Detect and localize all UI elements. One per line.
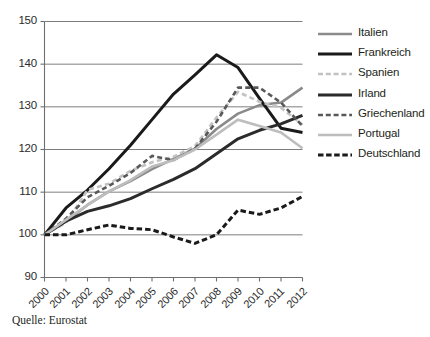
legend-label: Frankreich	[358, 46, 411, 58]
legend-swatch-italien-icon	[318, 26, 352, 38]
y-tick-label-120: 120	[11, 142, 37, 154]
legend-label: Spanien	[358, 66, 399, 78]
legend-item-griechenland[interactable]: Griechenland	[318, 103, 430, 123]
legend-swatch-griechenland-icon	[318, 107, 352, 119]
legend-swatch-frankreich-icon	[318, 46, 352, 58]
source-note: Quelle: Eurostat	[12, 314, 87, 326]
legend-label: Griechenland	[358, 107, 425, 119]
legend-swatch-spanien-icon	[318, 66, 352, 78]
y-tick-label-150: 150	[11, 14, 37, 26]
series-line-irland	[45, 115, 303, 234]
legend-item-frankreich[interactable]: Frankreich	[318, 42, 430, 62]
legend-item-portugal[interactable]: Portugal	[318, 123, 430, 143]
legend-item-italien[interactable]: Italien	[318, 22, 430, 42]
legend-label: Italien	[358, 26, 388, 38]
y-tick-label-130: 130	[11, 99, 37, 111]
y-tick-label-90: 90	[11, 270, 37, 282]
y-tick-label-100: 100	[11, 227, 37, 239]
series-line-portugal	[45, 120, 303, 235]
y-tick-label-110: 110	[11, 185, 37, 197]
legend-swatch-irland-icon	[318, 87, 352, 99]
legend-swatch-portugal-icon	[318, 127, 352, 139]
legend-swatch-deutschland-icon	[318, 147, 352, 159]
legend-label: Portugal	[358, 127, 400, 139]
chart-legend: ItalienFrankreichSpanienIrlandGriechenla…	[318, 22, 430, 163]
x-tick-marks-group	[45, 278, 303, 282]
legend-label: Deutschland	[358, 147, 420, 159]
series-line-deutschland	[45, 196, 303, 243]
y-tick-label-140: 140	[11, 57, 37, 69]
legend-item-irland[interactable]: Irland	[318, 83, 430, 103]
legend-item-spanien[interactable]: Spanien	[318, 62, 430, 82]
chart-figure: 90100110120130140150 2000200120022003200…	[0, 0, 430, 337]
legend-item-deutschland[interactable]: Deutschland	[318, 143, 430, 163]
legend-label: Irland	[358, 87, 386, 99]
